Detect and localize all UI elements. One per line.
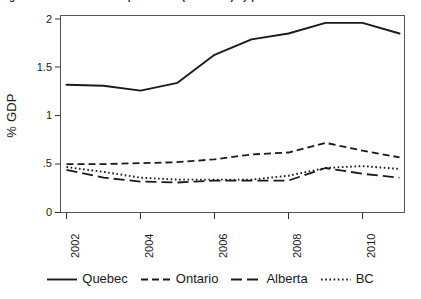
series-line-ontario <box>67 143 400 164</box>
series-line-alberta <box>67 168 400 183</box>
chart-legend: Quebec Ontario Alberta BC <box>0 272 421 286</box>
legend-swatch-quebec <box>47 275 77 284</box>
plot-area <box>0 0 421 299</box>
legend-entry-ontario[interactable]: Ontario <box>141 272 219 286</box>
y-axis-ticks <box>55 19 61 213</box>
legend-swatch-alberta <box>231 275 261 284</box>
series-line-quebec <box>67 23 400 91</box>
legend-label-bc: BC <box>356 272 374 286</box>
legend-entry-quebec[interactable]: Quebec <box>47 272 128 286</box>
legend-label-ontario: Ontario <box>176 272 219 286</box>
legend-entry-bc[interactable]: BC <box>321 272 374 286</box>
plot-frame <box>61 16 405 213</box>
legend-swatch-ontario <box>141 275 171 284</box>
legend-entry-alberta[interactable]: Alberta <box>231 272 307 286</box>
legend-label-alberta: Alberta <box>266 272 307 286</box>
legend-swatch-bc <box>321 275 351 284</box>
x-axis-ticks <box>67 213 363 220</box>
data-series-layer <box>67 23 400 183</box>
legend-label-quebec: Quebec <box>82 272 128 286</box>
chart-figure: Figure 1: Business R&D expenditures (% o… <box>0 0 421 299</box>
series-line-bc <box>67 166 400 180</box>
